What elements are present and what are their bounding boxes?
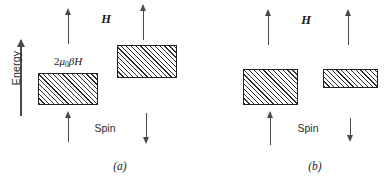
panel-caption-b: (b) — [295, 160, 335, 172]
panel-b: H Spin (b) — [200, 0, 391, 182]
field-arrow-up-left-a — [68, 14, 69, 44]
energy-splitting-label: 2μ0βH — [38, 55, 98, 67]
spin-down-band-a — [117, 45, 177, 78]
field-arrow-up-left-b — [268, 15, 269, 45]
spin-label-a: Spin — [85, 122, 125, 134]
spin-arrow-down-b — [350, 118, 351, 136]
spin-up-band-b — [243, 69, 298, 105]
spin-arrow-up-b — [270, 117, 271, 145]
spin-up-band-a — [38, 73, 98, 105]
panel-caption-a: (a) — [100, 160, 140, 172]
field-arrow-up-right-a — [143, 10, 144, 40]
field-label-a: H — [86, 12, 126, 27]
spin-down-band-b — [323, 69, 378, 88]
field-arrow-up-right-b — [348, 15, 349, 45]
splitting-mu-subscript: 0 — [65, 60, 69, 69]
splitting-field: H — [74, 55, 82, 67]
spin-arrow-up-a — [68, 117, 69, 142]
spin-arrow-down-a — [146, 113, 147, 138]
spin-label-b: Spin — [288, 122, 328, 134]
field-label-b: H — [286, 13, 326, 28]
panel-a: H 2μ0βH Spin (a) — [0, 0, 200, 182]
physics-energy-band-figure: Energy H 2μ0βH Spin (a) H Spin (b) — [0, 0, 391, 182]
